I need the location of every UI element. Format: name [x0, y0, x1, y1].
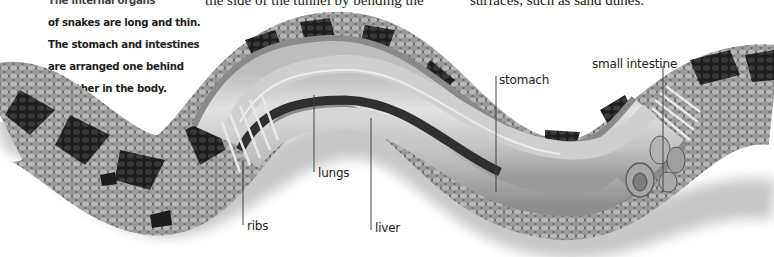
label-ribs: ribs: [247, 219, 268, 233]
label-lungs: lungs: [318, 166, 349, 180]
label-small-intestine: small intestine: [592, 57, 677, 71]
label-liver: liver: [375, 221, 400, 235]
label-stomach: stomach: [499, 73, 549, 87]
textbook-page: the side of the tunnel by bending the su…: [0, 0, 774, 257]
snake-cutaway-illustration: [0, 0, 774, 257]
